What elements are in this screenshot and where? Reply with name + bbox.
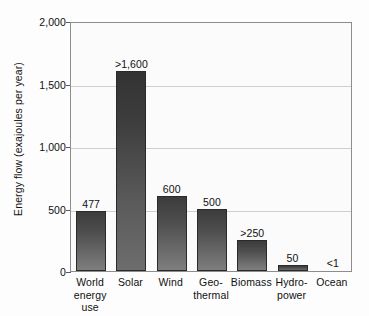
x-tick-label-line1: World <box>76 276 104 288</box>
bar-value-label: >250 <box>240 228 264 239</box>
y-tick-label: 2,000 <box>30 17 66 27</box>
bar-geo-thermal: 500 <box>197 209 227 272</box>
y-tick-label: 1,000 <box>30 142 66 152</box>
gridline <box>71 148 351 149</box>
plot-area: 477>1,600600500>25050<1 <box>70 22 352 272</box>
y-tick-label: 500 <box>30 205 66 215</box>
bar-world-energy-use: 477 <box>76 211 106 271</box>
bar-value-label: >1,600 <box>115 59 148 70</box>
x-tick-label-line2: energy use <box>64 289 116 314</box>
plot-inner: 477>1,600600500>25050<1 <box>71 23 351 271</box>
y-axis-ticks: 05001,0001,5002,000 <box>24 0 66 316</box>
bar-value-label: <1 <box>327 258 339 269</box>
y-tick-label: 0 <box>30 267 66 277</box>
x-tick-label-line2: power <box>265 289 317 302</box>
y-tick-label: 1,500 <box>30 80 66 90</box>
x-tick-label-line1: Geo- <box>199 276 223 288</box>
bar-chart-figure: Energy flow (exajoules per year) 05001,0… <box>0 0 369 316</box>
x-tick-label-line2: thermal <box>185 289 237 302</box>
bar-biomass: >250 <box>237 240 267 271</box>
x-tick-label-line1: Ocean <box>316 276 347 288</box>
bar-wind: 600 <box>157 196 187 271</box>
x-tick-label-line1: Solar <box>118 276 143 288</box>
gridline <box>71 86 351 87</box>
x-tick-label: Ocean <box>306 276 358 289</box>
y-tick-mark <box>66 272 71 273</box>
bar-value-label: 50 <box>287 253 299 264</box>
bar-value-label: 477 <box>82 199 100 210</box>
bar-value-label: 500 <box>203 197 221 208</box>
bar-hydro-power: 50 <box>278 265 308 271</box>
bar-solar: >1,600 <box>116 71 146 271</box>
x-tick-label-line1: Wind <box>159 276 183 288</box>
bar-value-label: 600 <box>163 184 181 195</box>
x-tick-label-line1: Hydro- <box>276 276 308 288</box>
